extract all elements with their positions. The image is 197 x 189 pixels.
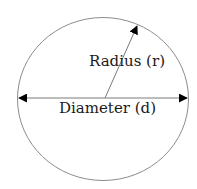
circle-diagram: Radius (r) Diameter (d)	[0, 0, 197, 189]
diameter-label: Diameter (d)	[59, 99, 156, 117]
radius-label: Radius (r)	[89, 52, 165, 70]
